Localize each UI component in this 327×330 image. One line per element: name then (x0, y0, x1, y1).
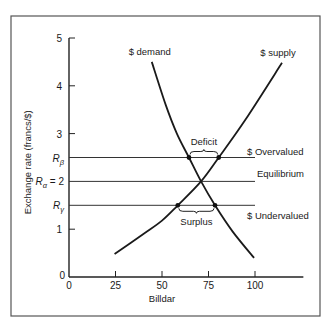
exchange-rate-chart: 025507510001345BilldarExchange rate (fra… (0, 0, 327, 330)
rate-beta-annotation: $ Overvalued (247, 146, 304, 157)
chart-frame (11, 16, 320, 316)
rate-alpha-annotation: Equilibrium (257, 168, 304, 179)
rate-gamma-axis-label: Rγ (53, 200, 65, 214)
y-tick-label: 1 (56, 224, 62, 235)
x-tick-label: 50 (156, 280, 168, 291)
rate-alpha-axis-label: Rα = 2 (36, 176, 65, 190)
x-tick-label: 0 (66, 280, 72, 291)
deficit-label: Deficit (191, 136, 218, 147)
deficit-brace (190, 150, 218, 155)
demand-curve (152, 62, 254, 258)
y-tick-label: 3 (56, 129, 62, 140)
curves (115, 62, 282, 258)
x-axis-label: Billdar (149, 293, 175, 304)
intersection-point (175, 203, 180, 208)
surplus-brace (179, 208, 214, 213)
rate-beta-axis-label: Rβ (52, 153, 64, 167)
surplus-label: Surplus (180, 216, 212, 227)
intersection-point (187, 155, 192, 160)
x-tick-label: 75 (203, 280, 215, 291)
demand-curve-label: $ demand (129, 46, 171, 57)
y-tick-label: 0 (59, 270, 65, 281)
y-axis-label: Exchange rate (francs/$) (22, 110, 33, 214)
x-tick-label: 25 (110, 280, 122, 291)
labels: $ demand$ supply (129, 46, 296, 58)
rate-gamma-annotation: $ Undervalued (247, 210, 309, 221)
intersection-point (213, 203, 218, 208)
x-tick-label: 100 (247, 280, 264, 291)
y-tick-label: 5 (56, 33, 62, 44)
supply-curve-label: $ supply (260, 47, 296, 58)
y-tick-label: 4 (56, 81, 62, 92)
intersection-point (216, 155, 221, 160)
